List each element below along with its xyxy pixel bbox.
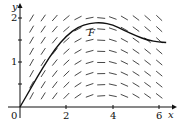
slope-segment <box>98 18 105 19</box>
slope-segment <box>53 82 57 88</box>
slope-segment <box>109 84 116 86</box>
slope-segment <box>30 15 34 21</box>
slope-field-chart <box>0 0 178 126</box>
slope-segment <box>145 60 151 64</box>
slope-segment <box>133 49 139 53</box>
slope-segment <box>133 94 139 98</box>
slope-segment <box>133 38 139 42</box>
slope-segment <box>109 95 116 96</box>
slope-segment <box>75 61 81 65</box>
slope-segment <box>156 60 162 65</box>
slope-segment <box>86 84 93 86</box>
slope-segment <box>53 93 57 99</box>
slope-segment <box>145 49 151 54</box>
slope-segment <box>64 49 69 54</box>
slope-segment <box>86 50 93 52</box>
x-tick-label-6: 6 <box>156 111 162 121</box>
slope-segment <box>30 26 34 32</box>
slope-segment <box>109 73 116 75</box>
slope-segment <box>86 39 93 41</box>
slope-segment <box>41 37 45 43</box>
slope-segment <box>75 50 81 54</box>
slope-segment <box>64 93 69 98</box>
y-tick-label-1: 1 <box>11 57 17 67</box>
slope-segment <box>30 37 34 43</box>
slope-segment <box>145 94 151 98</box>
slope-segment <box>41 82 45 88</box>
slope-segment <box>121 61 127 64</box>
slope-segment <box>121 94 128 97</box>
slope-segment <box>52 26 57 31</box>
x-tick-label-2: 2 <box>63 111 69 121</box>
slope-segment <box>75 16 81 19</box>
slope-segment <box>75 38 81 42</box>
slope-segment <box>133 16 139 20</box>
slope-segment <box>157 16 162 21</box>
slope-segment <box>109 17 116 19</box>
curve-label-F: F <box>88 28 95 38</box>
slope-segment <box>145 83 151 87</box>
slope-segment <box>156 83 162 87</box>
slope-segment <box>64 82 69 87</box>
slope-segment <box>109 62 116 64</box>
slope-segment <box>157 27 162 32</box>
slope-segment <box>109 39 116 41</box>
slope-segment <box>30 48 34 54</box>
slope-segment <box>121 16 127 20</box>
slope-segment <box>121 39 127 42</box>
slope-segment <box>156 49 161 54</box>
slope-segment <box>64 27 69 32</box>
y-axis-label: y <box>12 2 18 12</box>
slope-segment <box>156 71 162 76</box>
slope-segment <box>86 61 93 63</box>
slope-segment <box>53 60 57 66</box>
slope-segment <box>121 83 128 86</box>
slope-segment <box>86 73 93 75</box>
slope-segment <box>133 27 139 31</box>
slope-segment <box>75 94 81 98</box>
slope-segment <box>41 15 45 21</box>
slope-segment <box>53 71 57 77</box>
slope-segment <box>30 59 34 65</box>
slope-segment <box>41 26 45 32</box>
slope-segment <box>109 28 116 30</box>
slope-segment <box>52 15 57 20</box>
x-tick-label-4: 4 <box>110 111 116 121</box>
slope-segment <box>41 93 45 99</box>
slope-segment <box>133 83 139 87</box>
slope-segment <box>86 95 93 97</box>
slope-segment <box>109 50 116 52</box>
slope-segment <box>133 72 139 76</box>
slope-segment <box>86 17 93 18</box>
slope-segment <box>121 72 128 75</box>
slope-segment <box>41 48 45 54</box>
slope-segment <box>98 29 105 30</box>
slope-segment <box>41 71 45 77</box>
y-tick-label-2: 2 <box>11 13 17 23</box>
slope-segment <box>30 70 34 76</box>
y-axis-arrow-icon <box>18 3 23 8</box>
slope-segment <box>75 72 81 76</box>
slope-segment <box>145 71 151 75</box>
slope-segment <box>156 94 162 98</box>
slope-segment <box>145 16 150 21</box>
slope-segment <box>64 71 69 76</box>
slope-segment <box>52 37 57 43</box>
slope-segment <box>121 50 127 53</box>
slope-segment <box>30 93 33 99</box>
slope-segment <box>64 60 69 65</box>
slope-segment <box>133 61 139 65</box>
slope-segment <box>64 16 70 21</box>
slope-segment <box>75 83 81 87</box>
x-axis-label: x <box>168 110 174 120</box>
origin-label: 0 <box>11 111 17 121</box>
slope-segment <box>145 27 150 32</box>
